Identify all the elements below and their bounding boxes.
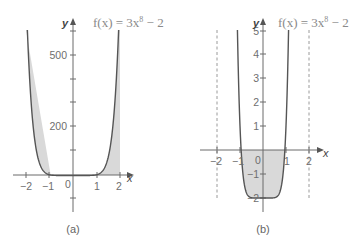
y-tick-label: 1 (253, 120, 259, 132)
y-axis-label: y (61, 17, 69, 29)
x-axis-label: x (322, 147, 329, 159)
caption-b: (b) (256, 223, 269, 235)
panel-a: 500 200 −2 −1 0 1 2 x y f(x) = 3x8 − 2 (… (13, 15, 164, 235)
y-tick-label: −2 (247, 192, 259, 204)
figure: 500 200 −2 −1 0 1 2 x y f(x) = 3x8 − 2 (… (0, 0, 358, 241)
y-tick-label: 2 (253, 96, 259, 108)
x-tick-label: 1 (284, 155, 290, 167)
y-axis-arrow-icon (70, 18, 76, 25)
y-tick-label-200: 200 (49, 120, 67, 132)
y-axis-label: y (252, 17, 260, 29)
y-tick-label: 3 (253, 72, 259, 84)
x-tick-label: 1 (94, 180, 100, 192)
x-tick-label: −2 (210, 155, 222, 167)
origin-label: 0 (255, 154, 261, 166)
y-tick-label-500: 500 (49, 49, 67, 61)
x-tick-label: −1 (232, 155, 244, 167)
x-tick-label: 2 (116, 180, 122, 192)
y-tick-label: −1 (247, 168, 259, 180)
x-axis-label: x (126, 172, 133, 184)
caption-a: (a) (66, 223, 79, 235)
y-axis-arrow-icon (260, 18, 266, 25)
x-tick-label: 2 (306, 155, 312, 167)
function-label-a: f(x) = 3x8 − 2 (93, 15, 164, 30)
origin-label: 0 (65, 178, 71, 190)
panel-b: 5 4 3 2 1 −1 −2 −2 −1 0 1 2 x y f(x) = 3… (200, 15, 349, 235)
x-tick-label: −1 (42, 180, 54, 192)
x-tick-label: −2 (20, 180, 32, 192)
function-label-b: f(x) = 3x8 − 2 (278, 15, 349, 30)
y-tick-label: 4 (253, 48, 259, 60)
